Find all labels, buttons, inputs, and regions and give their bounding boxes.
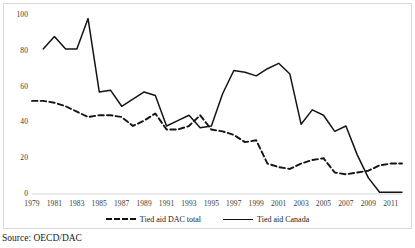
x-tick-label: 2009 (361, 199, 376, 208)
x-tick-label: 2007 (338, 199, 353, 208)
x-tick-label: 2005 (316, 199, 331, 208)
legend-swatch-solid-icon (223, 219, 253, 220)
chart-legend: Tied aid DAC total Tied aid Canada (0, 209, 415, 229)
x-tick-label: 1987 (114, 199, 129, 208)
chart-plot-frame: 100806040200 197919811983198519871989199… (3, 3, 412, 229)
legend-item-tied-aid-canada: Tied aid Canada (223, 215, 309, 224)
line-chart-canvas (4, 4, 413, 230)
x-tick-label: 1999 (249, 199, 264, 208)
y-tick-label: 20 (6, 153, 28, 162)
y-tick-label: 40 (6, 117, 28, 126)
x-tick-label: 1979 (24, 199, 39, 208)
x-tick-label: 1997 (226, 199, 241, 208)
legend-swatch-dashed-icon (106, 218, 136, 220)
legend-label-tied-aid-dac-total: Tied aid DAC total (140, 215, 201, 224)
x-tick-label: 2001 (271, 199, 286, 208)
x-tick-label: 1985 (92, 199, 107, 208)
x-tick-label: 1989 (136, 199, 151, 208)
chart-figure: 100806040200 197919811983198519871989199… (0, 0, 415, 248)
source-note: Source: OECD/DAC (2, 233, 82, 243)
y-tick-label: 80 (6, 46, 28, 55)
x-tick-label: 1993 (181, 199, 196, 208)
legend-item-tied-aid-dac-total: Tied aid DAC total (106, 215, 201, 224)
x-tick-label: 1995 (204, 199, 219, 208)
x-tick-label: 1981 (47, 199, 62, 208)
x-tick-label: 1991 (159, 199, 174, 208)
series-line-tied-aid-canada (43, 19, 402, 193)
legend-label-tied-aid-canada: Tied aid Canada (257, 215, 309, 224)
x-tick-label: 2003 (293, 199, 308, 208)
y-tick-label: 100 (6, 10, 28, 19)
x-tick-label: 2011 (383, 199, 398, 208)
y-tick-label: 60 (6, 82, 28, 91)
x-tick-label: 1983 (69, 199, 84, 208)
y-tick-label: 0 (6, 189, 28, 198)
